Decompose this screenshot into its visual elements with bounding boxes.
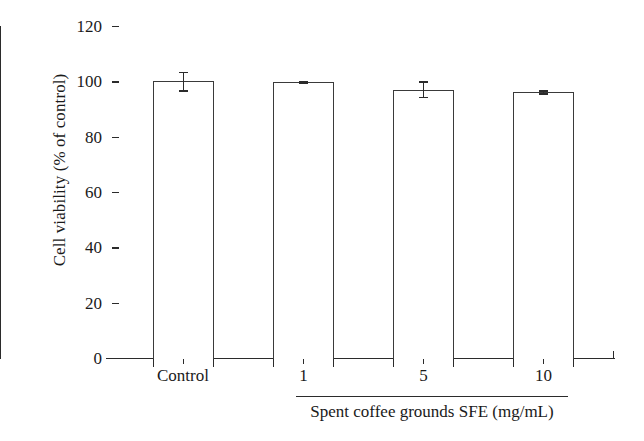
error-bar-cap-control-top: [179, 72, 188, 74]
x-tick-center-10: [543, 359, 544, 364]
error-bar-control: [183, 72, 185, 91]
y-tick-20: [112, 303, 119, 304]
error-bar-cap-dose-5-top: [419, 81, 428, 83]
y-tick-label-0: 0: [56, 350, 102, 367]
x-tick-center-1: [303, 359, 304, 364]
cell-viability-bar-chart: Cell viability (% of control) 120 100 80…: [0, 0, 644, 441]
x-label-dose-10: 10: [513, 366, 574, 385]
y-tick-label-60: 60: [56, 184, 102, 201]
x-label-control: Control: [123, 366, 243, 385]
bar-control: [153, 81, 214, 358]
error-bar-cap-dose-1-bottom: [299, 82, 308, 84]
y-axis-title: Cell viability (% of control): [50, 0, 70, 340]
error-bar-cap-dose-10-bottom: [539, 93, 548, 95]
x-label-dose-1: 1: [273, 366, 334, 385]
x-tick-center-5: [423, 359, 424, 364]
dose-group-underline: [296, 396, 568, 397]
y-tick-label-120: 120: [56, 18, 102, 35]
y-tick-label-80: 80: [56, 129, 102, 146]
y-tick-100: [112, 81, 119, 82]
y-tick-80: [112, 137, 119, 138]
y-tick-60: [112, 192, 119, 193]
y-tick-0: [106, 358, 119, 359]
y-axis-line: [0, 26, 1, 359]
x-label-dose-5: 5: [393, 366, 454, 385]
bar-dose-5: [393, 90, 454, 359]
y-tick-label-40: 40: [56, 239, 102, 256]
x-axis-end-cap: [613, 351, 614, 359]
bar-dose-10: [513, 92, 574, 358]
error-bar-cap-dose-5-bottom: [419, 97, 428, 99]
bar-dose-1: [273, 82, 334, 358]
error-bar-cap-control-bottom: [179, 90, 188, 92]
y-tick-label-20: 20: [56, 295, 102, 312]
y-tick-label-100: 100: [56, 73, 102, 90]
error-bar-dose-5: [423, 81, 425, 98]
x-axis-title: Spent coffee grounds SFE (mg/mL): [232, 402, 632, 422]
y-tick-120: [112, 26, 119, 27]
error-bar-cap-dose-10-top: [539, 90, 548, 92]
x-tick-center-control: [183, 359, 184, 364]
y-tick-40: [112, 247, 119, 248]
